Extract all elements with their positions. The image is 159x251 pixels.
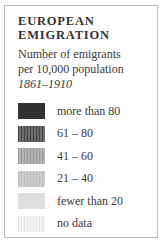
legend-item-label: no data — [57, 216, 92, 231]
legend-title-line2: EMIGRATION — [18, 28, 157, 42]
color-swatch-more-than-80 — [18, 103, 45, 119]
legend-item-label: 21 – 40 — [57, 171, 93, 186]
color-swatch-no-data — [18, 216, 45, 232]
legend-item: fewer than 20 — [18, 193, 157, 209]
legend-item-label: more than 80 — [57, 104, 120, 119]
legend-title: EUROPEAN EMIGRATION — [18, 14, 157, 42]
color-swatch-61-80 — [18, 126, 45, 142]
legend-item-label: 61 – 80 — [57, 126, 93, 141]
legend-panel: EUROPEAN EMIGRATION Number of emigrants … — [4, 5, 158, 238]
legend-subtitle: Number of emigrants per 10,000 populatio… — [18, 47, 157, 92]
legend-item: 61 – 80 — [18, 126, 157, 142]
legend-list: more than 80 61 – 80 41 – 60 21 – 40 few… — [18, 103, 157, 232]
legend-item-label: fewer than 20 — [57, 194, 123, 209]
map-legend-screenshot: EUROPEAN EMIGRATION Number of emigrants … — [0, 0, 159, 251]
legend-subtitle-line1: Number of emigrants — [18, 47, 157, 62]
legend-item: no data — [18, 216, 157, 232]
color-swatch-21-40 — [18, 171, 45, 187]
legend-subtitle-line2: per 10,000 population — [18, 62, 157, 77]
legend-item: more than 80 — [18, 103, 157, 119]
legend-item-label: 41 – 60 — [57, 149, 93, 164]
legend-title-line1: EUROPEAN — [18, 14, 157, 28]
color-swatch-41-60 — [18, 148, 45, 164]
color-swatch-fewer-than-20 — [18, 193, 45, 209]
legend-date-range: 1861–1910 — [18, 77, 157, 92]
legend-item: 21 – 40 — [18, 171, 157, 187]
legend-item: 41 – 60 — [18, 148, 157, 164]
